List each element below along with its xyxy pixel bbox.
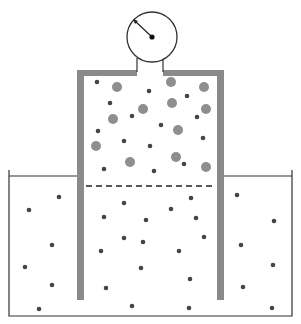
solute-particles xyxy=(23,80,277,312)
dissolved-particle xyxy=(188,277,193,282)
gas-particle xyxy=(199,82,209,92)
dissolved-particle xyxy=(50,243,55,248)
gas-particle xyxy=(167,98,177,108)
dissolved-particle xyxy=(202,235,207,240)
dissolved-particle xyxy=(169,207,174,212)
dissolved-particle xyxy=(187,306,192,311)
dissolved-particle xyxy=(177,249,182,254)
small-particle xyxy=(185,94,190,99)
gas-particle xyxy=(171,152,181,162)
small-particle xyxy=(195,115,200,120)
small-particle xyxy=(159,123,164,128)
dissolved-particle xyxy=(104,286,109,291)
small-particle xyxy=(108,101,113,106)
dissolved-particle xyxy=(23,265,28,270)
dissolved-particle xyxy=(241,285,246,290)
pressure-gauge xyxy=(127,12,177,62)
gauge-pivot xyxy=(149,34,154,39)
gas-particle xyxy=(138,104,148,114)
dissolved-particle xyxy=(235,193,240,198)
gas-particle xyxy=(112,82,122,92)
small-particle xyxy=(122,139,127,144)
gas-particle xyxy=(108,114,118,124)
dissolved-particle xyxy=(189,196,194,201)
dissolved-particle xyxy=(144,218,149,223)
small-particle xyxy=(148,144,153,149)
vessel-wall-right xyxy=(217,70,224,300)
dissolved-particle xyxy=(270,306,275,311)
gas-particle xyxy=(91,141,101,151)
dissolved-particle xyxy=(27,208,32,213)
dissolved-particle xyxy=(141,240,146,245)
dissolved-particle xyxy=(102,215,107,220)
dissolved-particle xyxy=(272,219,277,224)
vessel-top-right xyxy=(163,70,224,76)
small-particle xyxy=(201,136,206,141)
vessel-top-left xyxy=(77,70,137,76)
dissolved-particle xyxy=(194,216,199,221)
gas-particle xyxy=(125,157,135,167)
vessel xyxy=(77,70,224,300)
dissolved-particle xyxy=(122,236,127,241)
dissolved-particle xyxy=(122,201,127,206)
dissolved-particle xyxy=(50,283,55,288)
gas-particle xyxy=(201,162,211,172)
gas-particle xyxy=(173,125,183,135)
small-particle xyxy=(152,169,157,174)
dissolved-particle xyxy=(271,263,276,268)
dissolved-particle xyxy=(239,243,244,248)
small-particle xyxy=(130,114,135,119)
gas-particle xyxy=(166,77,176,87)
small-particle xyxy=(95,80,100,85)
small-particle xyxy=(147,89,152,94)
vessel-wall-left xyxy=(77,70,84,300)
gas-solubility-diagram xyxy=(0,0,301,324)
small-particle xyxy=(102,167,107,172)
small-particle xyxy=(96,129,101,134)
gas-particle xyxy=(201,104,211,114)
dissolved-particle xyxy=(57,195,62,200)
dissolved-particle xyxy=(37,307,42,312)
dissolved-particle xyxy=(99,249,104,254)
small-particle xyxy=(182,162,187,167)
dissolved-particle xyxy=(139,266,144,271)
dissolved-particle xyxy=(130,304,135,309)
